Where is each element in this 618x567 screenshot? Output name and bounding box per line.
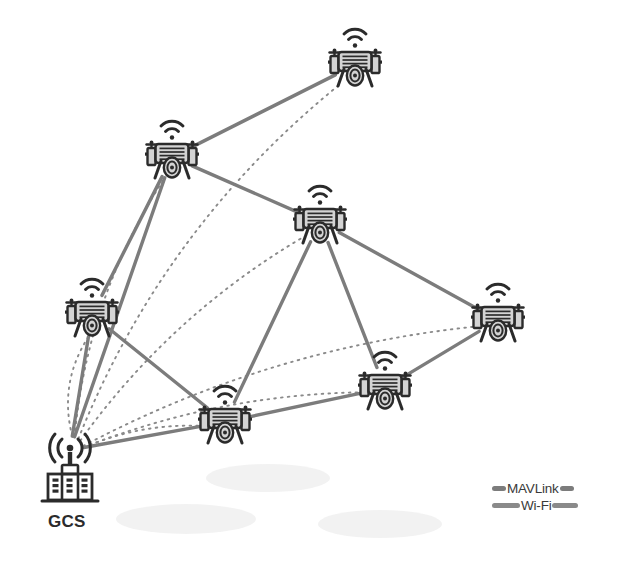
wifi-signal-icon	[344, 29, 366, 48]
legend-item-wifi: Wi-Fi	[492, 497, 578, 514]
quadcopter-drone-icon[interactable]	[65, 279, 119, 336]
wifi-signal-icon	[309, 186, 331, 205]
legend-item-mavlink: MAVLink	[492, 480, 578, 497]
wifi-signal-icon	[81, 279, 103, 298]
wifi-signal-icon	[214, 386, 236, 405]
legend-swatch-right-wifi	[552, 503, 578, 508]
quadcopter-drone-icon[interactable]	[328, 29, 382, 86]
quadcopter-drone-icon[interactable]	[145, 121, 199, 178]
quadcopter-drone-icon[interactable]	[471, 284, 525, 341]
gcs-station[interactable]	[42, 434, 98, 501]
diagram-canvas: GCS MAVLinkWi-Fi	[0, 0, 618, 567]
gcs-label: GCS	[48, 512, 86, 532]
legend-swatch-left-mavlink	[492, 486, 506, 491]
building-icon	[42, 465, 98, 501]
legend-label-wifi: Wi-Fi	[521, 499, 551, 513]
legend-swatch-right-mavlink	[560, 486, 574, 491]
quadcopter-drone-icon[interactable]	[198, 386, 252, 443]
legend-swatch-left-wifi	[492, 503, 520, 508]
quadcopter-drone-icon[interactable]	[358, 352, 412, 409]
wifi-signal-icon	[487, 284, 509, 303]
wifi-signal-icon	[374, 352, 396, 371]
radio-tower-icon	[50, 434, 91, 466]
quadcopter-drone-icon[interactable]	[293, 186, 347, 243]
legend: MAVLinkWi-Fi	[492, 480, 578, 514]
wifi-signal-icon	[161, 121, 183, 140]
legend-label-mavlink: MAVLink	[507, 482, 559, 496]
